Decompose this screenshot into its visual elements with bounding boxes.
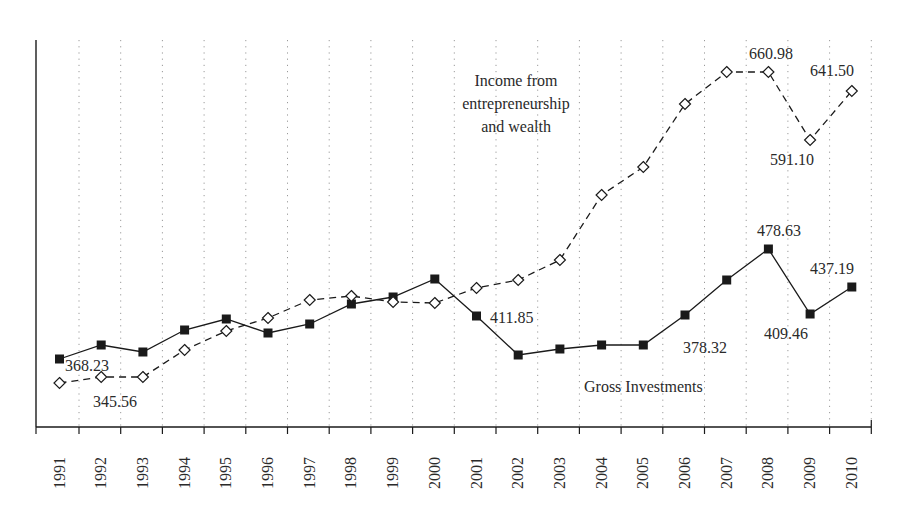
square-marker <box>222 315 231 324</box>
data-value-label: 437.19 <box>810 260 854 277</box>
square-marker <box>472 312 481 321</box>
diamond-marker <box>513 275 524 286</box>
data-value-label: 478.63 <box>757 222 801 239</box>
data-value-label: 591.10 <box>770 151 814 168</box>
diamond-marker <box>471 283 482 294</box>
x-tick-label: 2001 <box>468 457 485 489</box>
diamond-marker <box>54 378 65 389</box>
square-marker <box>430 275 439 284</box>
square-marker <box>514 351 523 360</box>
square-marker <box>597 341 606 350</box>
square-marker <box>264 329 273 338</box>
x-tick-label: 2000 <box>426 457 443 489</box>
diamond-marker <box>680 99 691 110</box>
diamond-marker <box>263 313 274 324</box>
square-marker <box>180 326 189 335</box>
diamond-marker <box>805 135 816 146</box>
x-tick-label: 1991 <box>51 457 68 489</box>
diamond-marker <box>554 255 565 266</box>
data-labels: 368.23411.85378.32478.63409.46437.19Gros… <box>65 45 854 410</box>
square-marker <box>97 341 106 350</box>
series-gross-investments <box>55 245 856 364</box>
x-tick-label: 1997 <box>301 457 318 489</box>
series-name-label: and wealth <box>481 118 551 135</box>
series-line <box>60 249 852 359</box>
x-axis-tick-labels: 1991199219931994199519961997199819992000… <box>51 457 860 489</box>
square-marker <box>764 245 773 254</box>
x-tick-label: 2010 <box>843 457 860 489</box>
x-tick-label: 2003 <box>551 457 568 489</box>
diamond-marker <box>137 372 148 383</box>
x-tick-label: 1995 <box>217 457 234 489</box>
diamond-marker <box>179 345 190 356</box>
square-marker <box>806 310 815 319</box>
data-value-label: 409.46 <box>764 325 808 342</box>
data-value-label: 368.23 <box>65 357 109 374</box>
diamond-marker <box>221 326 232 337</box>
diamond-marker <box>596 190 607 201</box>
series-line <box>60 72 852 383</box>
series-income-entrepreneurship-wealth <box>54 67 857 389</box>
x-tick-label: 2009 <box>801 457 818 489</box>
series-name-label: entrepreneurship <box>462 95 570 113</box>
x-tick-label: 1999 <box>384 457 401 489</box>
square-marker <box>305 320 314 329</box>
line-chart: 1991199219931994199519961997199819992000… <box>0 0 898 507</box>
diamond-marker <box>721 67 732 78</box>
x-tick-label: 1996 <box>259 457 276 489</box>
diamond-marker <box>638 162 649 173</box>
data-value-label: 641.50 <box>810 62 854 79</box>
x-tick-label: 1992 <box>92 457 109 489</box>
x-tick-label: 1998 <box>342 457 359 489</box>
square-marker <box>55 355 64 364</box>
x-tick-label: 2007 <box>718 457 735 489</box>
series-name-label: Income from <box>474 72 558 89</box>
x-tick-label: 2006 <box>676 457 693 489</box>
x-tick-label: 2002 <box>509 457 526 489</box>
data-value-label: 378.32 <box>683 339 727 356</box>
diamond-marker <box>763 67 774 78</box>
square-marker <box>681 311 690 320</box>
x-tick-label: 1994 <box>176 457 193 489</box>
series-layer <box>54 67 857 389</box>
square-marker <box>847 283 856 292</box>
square-marker <box>639 341 648 350</box>
square-marker <box>138 348 147 357</box>
x-tick-label: 2008 <box>759 457 776 489</box>
data-value-label: 345.56 <box>93 393 137 410</box>
x-tick-label: 2004 <box>593 457 610 489</box>
data-value-label: 660.98 <box>749 45 793 62</box>
square-marker <box>722 276 731 285</box>
diamond-marker <box>304 295 315 306</box>
square-marker <box>555 345 564 354</box>
data-value-label: 411.85 <box>490 309 533 326</box>
diamond-marker <box>429 298 440 309</box>
x-tick-label: 1993 <box>134 457 151 489</box>
series-name-label: Gross Investments <box>584 378 703 395</box>
x-tick-label: 2005 <box>634 457 651 489</box>
